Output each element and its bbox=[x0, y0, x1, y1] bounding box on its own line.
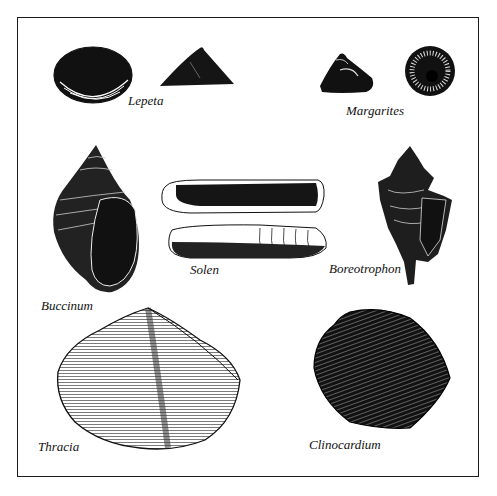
buccinum-shell-icon bbox=[53, 145, 139, 292]
label-boreotrophon: Boreotrophon bbox=[329, 262, 401, 275]
lepeta-top-view-icon bbox=[54, 47, 132, 103]
shell-illustrations bbox=[0, 0, 497, 496]
solen-top-valve-icon bbox=[162, 180, 324, 213]
label-thracia: Thracia bbox=[38, 440, 79, 453]
margarites-apical-view-icon bbox=[405, 46, 455, 96]
label-lepeta: Lepeta bbox=[128, 94, 163, 107]
clinocardium-shell-icon bbox=[314, 310, 450, 429]
margarites-side-view-icon bbox=[320, 54, 373, 94]
label-buccinum: Buccinum bbox=[41, 299, 93, 312]
label-solen: Solen bbox=[190, 263, 219, 276]
label-clinocardium: Clinocardium bbox=[309, 438, 381, 451]
solen-bottom-valve-icon bbox=[169, 225, 326, 258]
lepeta-side-view-icon bbox=[160, 47, 234, 86]
label-margarites: Margarites bbox=[346, 104, 404, 117]
thracia-shell-icon bbox=[58, 308, 240, 449]
